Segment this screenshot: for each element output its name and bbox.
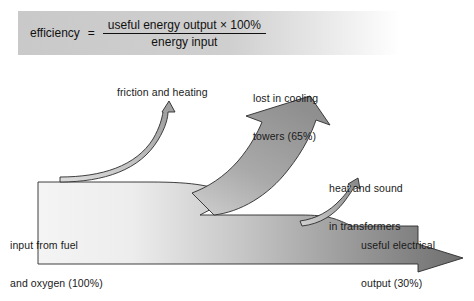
formula-label: efficiency bbox=[30, 26, 88, 40]
label-cooling-line-2: towers (65%) bbox=[253, 130, 318, 143]
efficiency-formula: efficiency = useful energy output × 100%… bbox=[18, 11, 400, 55]
label-input-line-2: and oxygen (100%) bbox=[10, 277, 103, 290]
label-heat-line-1: heat and sound bbox=[329, 182, 403, 195]
label-useful-electrical-output: useful electrical output (30%) bbox=[361, 214, 435, 301]
friction-and-heating-arrow bbox=[60, 101, 175, 182]
formula-numerator: useful energy output × 100% bbox=[103, 18, 266, 34]
label-input-line-1: input from fuel bbox=[10, 239, 103, 252]
label-lost-in-cooling-towers: lost in cooling towers (65%) bbox=[253, 67, 318, 167]
label-cooling-line-1: lost in cooling bbox=[253, 92, 318, 105]
formula-denominator: energy input bbox=[146, 34, 222, 49]
formula-fraction: useful energy output × 100% energy input bbox=[103, 18, 266, 49]
diagram-canvas: efficiency = useful energy output × 100%… bbox=[0, 0, 474, 301]
label-output-line-1: useful electrical bbox=[361, 239, 435, 252]
label-friction-and-heating: friction and heating bbox=[117, 86, 208, 99]
label-output-line-2: output (30%) bbox=[361, 277, 435, 290]
formula-equals: = bbox=[88, 26, 103, 40]
label-input-from-fuel-and-oxygen: input from fuel and oxygen (100%) bbox=[10, 214, 103, 301]
